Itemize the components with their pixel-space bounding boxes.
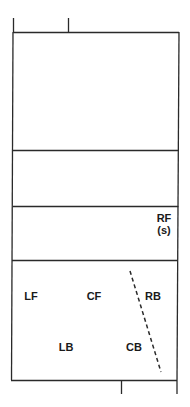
player-cf: CF xyxy=(83,290,105,302)
dashed-serve-line xyxy=(130,271,161,372)
player-lf: LF xyxy=(20,290,42,302)
player-rb: RB xyxy=(142,290,164,302)
player-cb: CB xyxy=(123,341,145,353)
player-rf: RF (s) xyxy=(153,212,175,236)
player-lb: LB xyxy=(55,341,77,353)
player-rf-sub: (s) xyxy=(153,224,175,236)
player-rf-label: RF xyxy=(153,212,175,224)
court-diagram xyxy=(0,0,190,407)
